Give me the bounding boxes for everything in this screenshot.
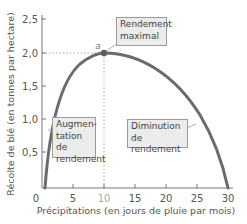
x-tick-label: 25 — [191, 193, 204, 204]
y-ticks — [42, 19, 46, 152]
y-tick-label: 2,0 — [22, 48, 38, 59]
leader-decrease — [187, 124, 196, 128]
x-axis-title: Précipitations (en jours de pluie par mo… — [37, 205, 236, 216]
y-axis-title: Récolte de blé (en tonnes par hectare) — [5, 12, 16, 195]
x-tick-label: 15 — [129, 193, 142, 204]
x-ticks — [73, 184, 228, 188]
x-tick-label: 5 — [70, 193, 76, 204]
annotation-decreasing-yield: Diminution de rendement — [127, 119, 188, 148]
x-tick-label: 20 — [160, 193, 173, 204]
x-tick-label: 0 — [33, 193, 39, 204]
y-tick-label: 0,5 — [22, 147, 38, 158]
annotation-max-yield: Rendement maximal — [116, 17, 167, 46]
annotation-increasing-yield: Augmen- tation de rendement — [52, 117, 96, 158]
x-tick-label: 10 — [98, 193, 111, 204]
y-tick-label: 2,5 — [22, 14, 38, 25]
x-tick-label: 30 — [222, 193, 235, 204]
point-a-label: a — [95, 41, 101, 51]
y-tick-label: 1,5 — [22, 81, 38, 92]
y-tick-label: 1,0 — [22, 114, 38, 125]
